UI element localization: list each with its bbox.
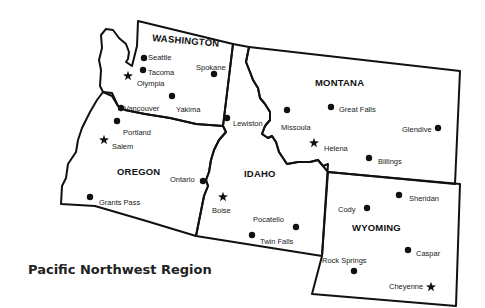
- city-boise: Boise: [212, 192, 231, 215]
- city-label: Olympia: [137, 79, 165, 88]
- capital-star-icon: [218, 192, 228, 201]
- capital-star-icon: [426, 282, 436, 291]
- city-label: Vancouver: [124, 104, 160, 113]
- city-dot-icon: [396, 192, 402, 198]
- city-sheridan: Sheridan: [396, 192, 439, 203]
- city-dot-icon: [114, 118, 120, 124]
- city-label: Missoula: [281, 123, 311, 132]
- city-dot-icon: [224, 115, 230, 121]
- city-dot-icon: [405, 247, 411, 253]
- capital-star-icon: [309, 138, 319, 147]
- city-billings: Billings: [366, 155, 402, 166]
- city-salem: Salem: [99, 135, 133, 151]
- city-label: Lewiston: [233, 119, 263, 128]
- city-label: Cheyenne: [389, 282, 423, 291]
- state-label-wyoming: WYOMING: [352, 222, 401, 233]
- city-label: Caspar: [416, 249, 441, 258]
- city-label: Billings: [378, 157, 402, 166]
- city-label: Glendive: [402, 125, 432, 134]
- city-dot-icon: [364, 205, 370, 211]
- city-pocatello: Pocatello: [253, 215, 299, 230]
- city-label: Rock Springs: [322, 256, 367, 265]
- city-rock-springs: Rock Springs: [322, 256, 367, 274]
- city-missoula: Missoula: [281, 107, 311, 132]
- city-dot-icon: [87, 194, 93, 200]
- city-label: Pocatello: [253, 215, 284, 224]
- city-dot-icon: [366, 155, 372, 161]
- capital-star-icon: [123, 71, 133, 80]
- city-helena: Helena: [309, 138, 349, 153]
- city-dot-icon: [284, 107, 290, 113]
- city-dot-icon: [328, 104, 334, 110]
- wyoming-border: [312, 172, 460, 306]
- city-label: Boise: [212, 206, 231, 215]
- city-label: Grants Pass: [99, 198, 141, 207]
- city-vancouver: Vancouver: [118, 104, 160, 113]
- city-dot-icon: [169, 93, 175, 99]
- montana-border: [246, 47, 460, 184]
- city-caspar: Caspar: [405, 247, 441, 258]
- state-label-montana: MONTANA: [315, 77, 364, 88]
- map-title: Pacific Northwest Region: [28, 262, 212, 277]
- city-label: Sheridan: [409, 194, 439, 203]
- city-dot-icon: [249, 232, 255, 238]
- city-label: Yakima: [176, 105, 201, 114]
- city-lewiston: Lewiston: [224, 115, 263, 128]
- city-label: Ontario: [170, 175, 195, 184]
- state-label-washington: WASHINGTON: [152, 32, 220, 49]
- city-label: Twin Falls: [260, 237, 294, 246]
- city-dot-icon: [200, 178, 206, 184]
- state-label-oregon: OREGON: [117, 166, 160, 177]
- city-dot-icon: [293, 224, 299, 230]
- city-label: Salem: [112, 142, 133, 151]
- state-label-idaho: IDAHO: [244, 168, 276, 179]
- city-label: Spokane: [196, 63, 226, 72]
- city-ontario: Ontario: [170, 175, 206, 184]
- city-dot-icon: [351, 268, 357, 274]
- city-label: Seattle: [148, 53, 171, 62]
- city-portland: Portland: [114, 118, 151, 137]
- city-cheyenne: Cheyenne: [389, 282, 436, 291]
- city-label: Tacoma: [148, 68, 175, 77]
- city-label: Great Falls: [339, 105, 376, 114]
- city-cody: Cody: [338, 205, 370, 214]
- capital-star-icon: [99, 135, 109, 144]
- city-label: Portland: [123, 128, 151, 137]
- city-glendive: Glendive: [402, 125, 441, 134]
- city-great-falls: Great Falls: [328, 104, 376, 114]
- city-tacoma: Tacoma: [140, 67, 175, 77]
- city-seattle: Seattle: [141, 53, 172, 62]
- city-twin-falls: Twin Falls: [249, 232, 294, 246]
- city-spokane: Spokane: [196, 63, 226, 77]
- city-dot-icon: [141, 55, 147, 61]
- city-label: Helena: [324, 144, 349, 153]
- city-dot-icon: [140, 67, 146, 73]
- city-dot-icon: [435, 125, 441, 131]
- city-yakima: Yakima: [169, 93, 201, 114]
- city-label: Cody: [338, 205, 356, 214]
